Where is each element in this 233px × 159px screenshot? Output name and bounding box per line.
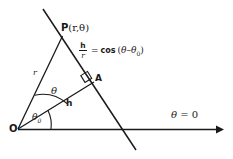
label-point-P: P(r,θ) xyxy=(61,23,89,33)
label-point-P-coords: (r,θ) xyxy=(68,22,89,33)
label-radius-r: r xyxy=(33,69,37,77)
label-perpendicular-h: h xyxy=(66,99,72,108)
label-point-A: A xyxy=(95,74,102,83)
diagram-canvas xyxy=(0,0,233,159)
equation-argument: (θ–θ0) xyxy=(118,45,144,57)
label-angle-theta0: θ0 xyxy=(32,113,41,124)
label-angle-theta0-subscript: 0 xyxy=(37,117,41,124)
fraction-h-over-r: h r xyxy=(79,42,87,59)
equation-cos-function: cos xyxy=(101,46,116,55)
axis-arrowhead-icon xyxy=(216,125,224,133)
label-axis-theta-equals-zero: θ = 0 xyxy=(171,110,198,120)
label-angle-theta: θ xyxy=(51,86,57,96)
fraction-numerator-h: h xyxy=(80,42,85,50)
angle-arc-theta0 xyxy=(48,110,51,129)
equation-equals-sign: = xyxy=(91,46,99,56)
label-axis-equals-zero: = 0 xyxy=(180,109,198,120)
equation-polar-line: h r = cos (θ–θ0) xyxy=(79,42,144,59)
label-origin-O: O xyxy=(9,124,18,134)
label-axis-theta-symbol: θ xyxy=(171,109,177,120)
argument-close-paren: ) xyxy=(140,45,144,55)
fraction-denominator-r: r xyxy=(81,52,85,60)
